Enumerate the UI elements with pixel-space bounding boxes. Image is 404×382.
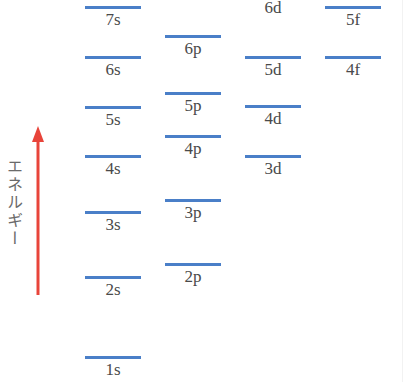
orbital-label: 3p — [165, 204, 221, 222]
energy-level-line — [165, 263, 221, 266]
orbital-label: 5d — [245, 61, 301, 79]
orbital-6p: 6p — [165, 35, 221, 59]
orbital-label: 5f — [325, 11, 381, 29]
orbital-label: 4f — [325, 61, 381, 79]
energy-level-line — [245, 56, 301, 59]
energy-arrow-icon — [30, 126, 46, 296]
orbital-3d: 3d — [245, 155, 301, 179]
orbital-2s: 2s — [85, 276, 141, 300]
energy-level-line — [245, 105, 301, 108]
orbital-5s: 5s — [85, 106, 141, 130]
page-edge-divider — [402, 0, 403, 382]
orbital-label: 4s — [85, 160, 141, 178]
orbital-label: 2s — [85, 281, 141, 299]
orbital-7s: 7s — [85, 6, 141, 30]
energy-level-line — [85, 211, 141, 214]
energy-level-line — [85, 6, 141, 9]
orbital-4p: 4p — [165, 135, 221, 159]
energy-level-line — [85, 106, 141, 109]
energy-axis-label: エネルギー — [5, 158, 25, 248]
orbital-5p: 5p — [165, 92, 221, 116]
orbital-label: 3d — [245, 160, 301, 178]
energy-level-line — [245, 155, 301, 158]
energy-level-line — [85, 155, 141, 158]
orbital-label: 6d — [245, 0, 301, 17]
orbital-6s: 6s — [85, 56, 141, 80]
orbital-1s: 1s — [85, 356, 141, 380]
orbital-label: 4d — [245, 110, 301, 128]
orbital-label: 3s — [85, 216, 141, 234]
orbital-label: 7s — [85, 11, 141, 29]
orbital-4d: 4d — [245, 105, 301, 129]
orbital-6d: 6d — [245, 0, 301, 18]
orbital-label: 6s — [85, 61, 141, 79]
orbital-label: 4p — [165, 140, 221, 158]
orbital-4s: 4s — [85, 155, 141, 179]
orbital-5d: 5d — [245, 56, 301, 80]
orbital-label: 6p — [165, 40, 221, 58]
energy-level-line — [165, 92, 221, 95]
orbital-label: 5p — [165, 97, 221, 115]
energy-level-line — [85, 356, 141, 359]
orbital-2p: 2p — [165, 263, 221, 287]
energy-level-line — [165, 199, 221, 202]
orbital-5f: 5f — [325, 6, 381, 30]
energy-level-line — [85, 276, 141, 279]
orbital-3p: 3p — [165, 199, 221, 223]
orbital-label: 5s — [85, 111, 141, 129]
orbital-label: 2p — [165, 268, 221, 286]
orbital-label: 1s — [85, 361, 141, 379]
orbital-energy-diagram: エネルギー 7s 6s 5s 4s 3s 2s 1s 6p 5p — [0, 0, 404, 382]
orbital-3s: 3s — [85, 211, 141, 235]
energy-level-line — [325, 56, 381, 59]
energy-level-line — [325, 6, 381, 9]
energy-level-line — [165, 35, 221, 38]
energy-level-line — [165, 135, 221, 138]
orbital-4f: 4f — [325, 56, 381, 80]
energy-level-line — [85, 56, 141, 59]
